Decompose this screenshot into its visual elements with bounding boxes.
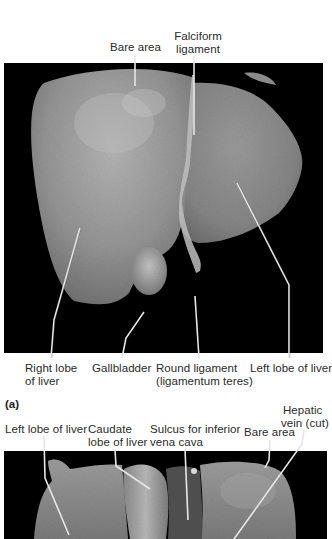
left-lobe-shape (181, 83, 302, 243)
liver-anterior-illustration (4, 63, 323, 353)
label-caudate-lobe: Caudate lobe of liver (88, 423, 147, 449)
left-lobe-posterior-shape (34, 459, 128, 539)
label-gallbladder: Gallbladder (92, 362, 151, 375)
label-left-lobe-a: Left lobe of liver (250, 362, 332, 375)
caudate-lobe-shape (123, 465, 168, 539)
label-right-lobe: Right lobe of liver (25, 362, 77, 388)
label-falciform-ligament: Falciform ligament (170, 30, 226, 56)
label-bare-area-a: Bare area (110, 41, 161, 54)
surface-highlight (122, 89, 166, 117)
liver-posterior-illustration (4, 451, 327, 539)
panel-letter-a: (a) (5, 398, 19, 410)
label-left-lobe-b: Left lobe of liver (5, 423, 87, 436)
sulcus-ivc-shape (166, 466, 204, 539)
gallbladder-shape (131, 247, 167, 295)
label-sulcus-ivc: Sulcus for inferior vena cava (150, 423, 240, 449)
label-bare-area-b: Bare area (244, 426, 295, 439)
liver-posterior-photo (4, 451, 327, 539)
liver-anterior-photo (4, 63, 323, 353)
label-round-ligament: Round ligament (ligamentum teres) (156, 362, 253, 388)
